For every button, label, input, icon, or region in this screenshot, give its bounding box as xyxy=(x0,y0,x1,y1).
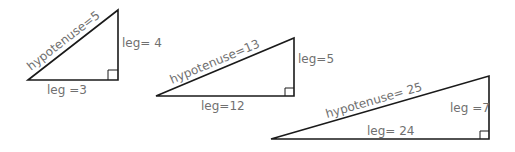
triangle-5-12-13: hypotenuse=13 leg=5 leg=12 xyxy=(156,37,334,113)
right-triangles-diagram: hypotenuse=5 leg= 4 leg =3 hypotenuse=13… xyxy=(0,0,515,152)
triangle-3-4-5: hypotenuse=5 leg= 4 leg =3 xyxy=(24,8,162,97)
triangle-7-24-25: hypotenuse= 25 leg =7 leg= 24 xyxy=(271,76,490,139)
hypotenuse-label: hypotenuse= 25 xyxy=(324,80,424,121)
horizontal-leg-label: leg =3 xyxy=(47,83,87,97)
vertical-leg-label: leg =7 xyxy=(450,101,490,115)
vertical-leg-label: leg=5 xyxy=(298,52,334,66)
right-angle-marker xyxy=(108,70,118,80)
triangle-outline xyxy=(156,38,294,96)
right-angle-marker xyxy=(285,88,294,96)
horizontal-leg-label: leg=12 xyxy=(201,99,245,113)
hypotenuse-label: hypotenuse=13 xyxy=(168,37,262,87)
triangle-outline xyxy=(28,10,118,80)
vertical-leg-label: leg= 4 xyxy=(122,36,162,50)
right-angle-marker xyxy=(480,131,489,139)
hypotenuse-label: hypotenuse=5 xyxy=(24,8,102,73)
horizontal-leg-label: leg= 24 xyxy=(367,124,414,138)
